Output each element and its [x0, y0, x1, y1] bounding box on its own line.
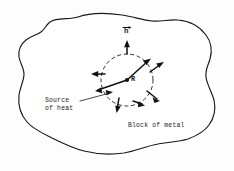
vector-h-label: h	[124, 27, 129, 36]
figure-canvas	[0, 0, 234, 171]
source-caption-line-1: Source	[45, 97, 69, 104]
source-of-heat-caption: Sourceof heat	[45, 97, 73, 113]
heat-conduction-figure: h R Sourceof heat Block of metal	[0, 0, 234, 171]
source-caption-line-2: of heat	[45, 105, 73, 112]
source-point-label: R	[131, 75, 135, 84]
source-point-dot	[125, 78, 129, 82]
block-of-metal-caption: Block of metal	[128, 122, 185, 130]
